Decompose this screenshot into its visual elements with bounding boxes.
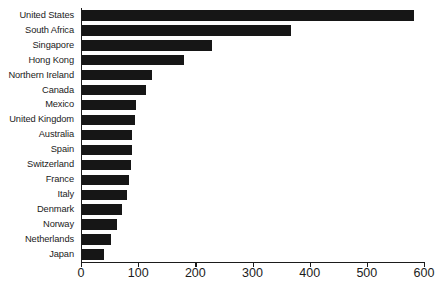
- bar: [82, 100, 136, 110]
- bar-row: [82, 142, 425, 157]
- category-label: Northern Ireland: [0, 68, 78, 83]
- bar: [82, 219, 117, 229]
- bar: [82, 25, 291, 35]
- category-label: Canada: [0, 83, 78, 98]
- bar: [82, 190, 127, 200]
- bar-row: [82, 8, 425, 23]
- bar-row: [82, 23, 425, 38]
- x-tick-label: 600: [414, 267, 435, 280]
- bar: [82, 55, 184, 65]
- x-tick-label: 100: [128, 267, 149, 280]
- bar-row: [82, 217, 425, 232]
- bar-row: [82, 38, 425, 53]
- bar: [82, 115, 135, 125]
- category-label: Mexico: [0, 98, 78, 113]
- bar-row: [82, 68, 425, 83]
- bar-chart: United StatesSouth AfricaSingaporeHong K…: [0, 0, 446, 297]
- category-label: Singapore: [0, 38, 78, 53]
- x-tick-label: 400: [299, 267, 320, 280]
- x-axis-tick-labels: 0100200300400500600: [0, 267, 446, 287]
- bar-row: [82, 247, 425, 262]
- bar-row: [82, 128, 425, 143]
- bar: [82, 160, 131, 170]
- bar: [82, 130, 132, 140]
- bar-row: [82, 157, 425, 172]
- bar-row: [82, 83, 425, 98]
- bar: [82, 204, 122, 214]
- category-axis-labels: United StatesSouth AfricaSingaporeHong K…: [0, 8, 78, 262]
- category-label: Japan: [0, 247, 78, 262]
- bar: [82, 234, 111, 244]
- bar: [82, 10, 414, 20]
- x-tick-label: 200: [185, 267, 206, 280]
- bar: [82, 70, 152, 80]
- bar-row: [82, 172, 425, 187]
- category-label: Spain: [0, 142, 78, 157]
- category-label: Australia: [0, 128, 78, 143]
- x-tick-label: 0: [78, 267, 85, 280]
- bar-row: [82, 113, 425, 128]
- plot-area: [81, 8, 425, 263]
- category-label: South Africa: [0, 23, 78, 38]
- category-label: Hong Kong: [0, 53, 78, 68]
- bar: [82, 145, 132, 155]
- bar-series: [82, 8, 425, 262]
- bar: [82, 85, 146, 95]
- x-tick-label: 500: [356, 267, 377, 280]
- bar-row: [82, 53, 425, 68]
- bar-row: [82, 98, 425, 113]
- bar-row: [82, 232, 425, 247]
- bar-row: [82, 202, 425, 217]
- bar: [82, 40, 212, 50]
- category-label: Norway: [0, 217, 78, 232]
- category-label: Netherlands: [0, 232, 78, 247]
- bar: [82, 175, 129, 185]
- category-label: United States: [0, 8, 78, 23]
- bar: [82, 249, 104, 259]
- bar-row: [82, 187, 425, 202]
- category-label: Switzerland: [0, 157, 78, 172]
- category-label: France: [0, 172, 78, 187]
- category-label: Denmark: [0, 202, 78, 217]
- category-label: Italy: [0, 187, 78, 202]
- x-tick-label: 300: [242, 267, 263, 280]
- category-label: United Kingdom: [0, 113, 78, 128]
